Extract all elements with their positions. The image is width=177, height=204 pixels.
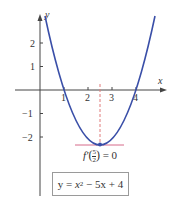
y-tick-label-2: 2 bbox=[30, 38, 35, 49]
y-tick-label-m1: −1 bbox=[22, 108, 33, 119]
paren-close: ) bbox=[96, 148, 100, 162]
derivative-annotation: f′(52) = 0 bbox=[70, 148, 130, 164]
derivative-equals: = 0 bbox=[103, 149, 117, 161]
formula-equals: = bbox=[63, 178, 75, 190]
x-tick-label-3: 3 bbox=[109, 92, 114, 103]
formula-box: y = x2 − 5x + 4 bbox=[52, 172, 129, 196]
x-tick-label-2: 2 bbox=[85, 92, 90, 103]
x-axis-arrow-icon bbox=[160, 88, 167, 93]
formula-rest: − 5x + 4 bbox=[83, 178, 123, 190]
y-axis-arrow-icon bbox=[38, 14, 43, 21]
vertex-point bbox=[98, 143, 102, 147]
y-tick-label-1: 1 bbox=[30, 61, 35, 72]
y-tick-label-m2: −2 bbox=[22, 132, 33, 143]
x-axis-label: x bbox=[157, 75, 163, 86]
